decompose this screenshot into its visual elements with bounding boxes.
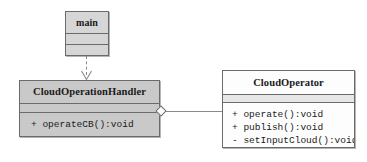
class-attributes-main [66, 34, 108, 44]
class-method-set-input-cloud: - setInputCloud():void [232, 134, 354, 147]
class-methods-cloud-operator: + operate():void + publish():void - setI… [223, 103, 354, 148]
class-method-operate-cb: + operateCB():void [31, 118, 159, 131]
class-methods-main [66, 45, 108, 56]
class-method-operate: + operate():void [232, 108, 354, 121]
class-box-main[interactable]: main [65, 11, 109, 56]
class-method-publish: + publish():void [232, 121, 354, 134]
class-title-cloud-operator: CloudOperator [223, 71, 354, 94]
class-box-cloud-operator[interactable]: CloudOperator + operate():void + publish… [222, 70, 355, 148]
class-box-cloud-operation-handler[interactable]: CloudOperationHandler + operateCB():void [19, 80, 160, 137]
class-title-main: main [66, 12, 108, 33]
class-attributes-cloud-operator [223, 95, 354, 102]
class-title-cloud-operation-handler: CloudOperationHandler [20, 81, 159, 103]
class-attributes-cloud-operation-handler [20, 104, 159, 112]
aggregation-line-handler-to-operator [166, 111, 223, 112]
uml-class-diagram-canvas: main CloudOperationHandler + operateCB()… [0, 0, 367, 162]
class-methods-cloud-operation-handler: + operateCB():void [20, 113, 159, 138]
